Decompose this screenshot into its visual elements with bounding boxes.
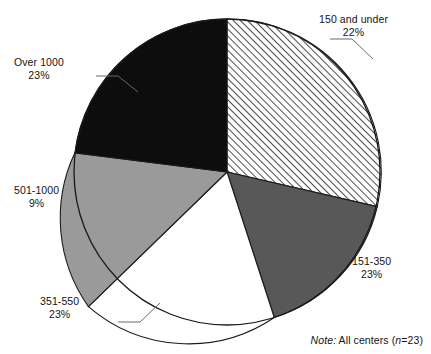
pie-label-151-350: 151-350 23% [352,255,391,280]
pie-label-351-550: 351-550 23% [40,295,79,320]
chart-note-prefix: Note: [311,334,337,346]
pie-label-150-and-under-text: 150 and under [319,13,388,25]
pie-slice-over-1000[interactable] [75,19,227,172]
pie-label-150-and-under: 150 and under 22% [319,13,388,38]
pie-label-151-350-percent: 23% [352,268,391,281]
pie-chart-figure: 150 and under 22% Over 1000 23% 501-1000… [0,0,431,354]
leader-line-150-and-under [330,39,373,59]
pie-label-501-1000-text: 501-1000 [14,184,59,196]
pie-label-over-1000-percent: 23% [14,69,64,82]
pie-label-501-1000: 501-1000 9% [14,184,59,209]
pie-label-351-550-percent: 23% [40,308,79,321]
pie-label-151-350-text: 151-350 [352,255,391,267]
chart-note-body-after: =23) [401,334,423,346]
pie-label-501-1000-percent: 9% [14,197,59,210]
pie-label-over-1000-text: Over 1000 [14,56,64,68]
chart-note: Note: All centers (n=23) [311,334,423,346]
pie-label-over-1000: Over 1000 23% [14,56,64,81]
pie-label-351-550-text: 351-550 [40,295,79,307]
pie-label-150-and-under-percent: 22% [319,26,388,39]
chart-note-body-before: All centers ( [336,334,395,346]
